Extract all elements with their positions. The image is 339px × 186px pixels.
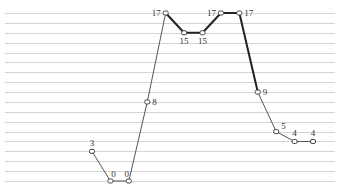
data-label: 3 <box>90 138 95 148</box>
data-label: 9 <box>263 87 268 97</box>
data-label: 17 <box>207 8 217 18</box>
data-label: 15 <box>180 36 190 46</box>
line-segment <box>239 13 257 92</box>
data-point <box>182 31 187 35</box>
gridlines <box>5 14 335 182</box>
data-label: 4 <box>311 128 316 138</box>
data-point <box>163 11 168 15</box>
line-segment <box>166 13 184 33</box>
data-point <box>274 130 279 134</box>
data-point <box>255 90 260 94</box>
data-point <box>311 139 316 143</box>
data-point <box>145 100 150 104</box>
data-label: 15 <box>198 36 208 46</box>
line-segment <box>147 13 165 102</box>
data-point <box>237 11 242 15</box>
data-point <box>108 179 113 183</box>
data-label: 0 <box>125 169 130 179</box>
data-point <box>90 149 95 153</box>
data-label: 0 <box>111 169 116 179</box>
data-label: 17 <box>244 8 254 18</box>
data-label: 5 <box>281 121 286 131</box>
line-segment <box>92 151 110 181</box>
data-point <box>218 11 223 15</box>
data-point <box>200 31 205 35</box>
data-point <box>292 139 297 143</box>
data-label: 4 <box>292 128 297 138</box>
line-chart: 300817151517179544 <box>0 0 339 186</box>
data-label: 8 <box>152 97 157 107</box>
data-point <box>126 179 131 183</box>
line-segment <box>258 92 276 132</box>
data-label: 17 <box>152 8 162 18</box>
